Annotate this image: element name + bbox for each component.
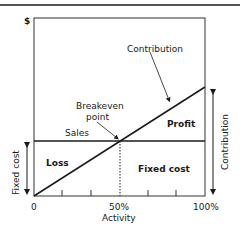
contribution-side-label: Contribution [220,114,230,170]
x-tick-0: 0 [31,202,37,212]
sales-label: Sales [65,128,89,138]
x-axis-title: Activity [102,213,136,223]
breakeven-label-line1: Breakeven [76,101,124,111]
breakeven-diagram: $ Contribution Breakeven point Sales Pro… [0,0,244,239]
x-minor-ticks [62,190,176,196]
x-tick-50: 50% [109,202,129,212]
contribution-pointer-arrow [150,52,169,100]
y-axis-label: $ [24,16,30,26]
fixed-cost-region-label: Fixed cost [138,164,191,174]
profit-label: Profit [167,119,196,129]
contribution-label: Contribution [127,44,183,54]
loss-label: Loss [46,158,69,168]
x-tick-100: 100% [193,202,219,212]
fixed-cost-side-label: Fixed cost [11,150,21,195]
breakeven-label-line2: point [86,112,109,122]
breakeven-pointer-arrow [97,122,117,138]
